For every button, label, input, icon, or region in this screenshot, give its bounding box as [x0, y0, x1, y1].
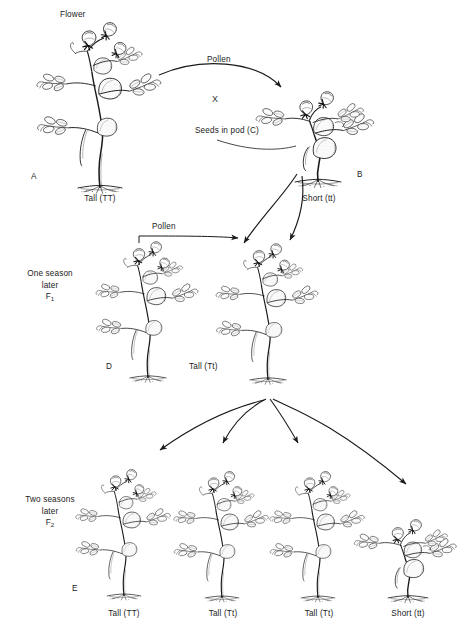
plant-letter-E: E	[72, 584, 78, 595]
caption-plant-A: Tall (TT)	[60, 194, 140, 205]
seeds-in-pod-leader	[217, 140, 296, 149]
flower-label: Flower	[60, 10, 85, 21]
caption-f2-plant-3: Tall (Tt)	[279, 609, 359, 620]
stage-f1-line2: later	[42, 281, 59, 290]
plant-E-tall-TT	[75, 468, 172, 600]
f2-arrow-3	[270, 399, 298, 443]
caption-plant-D: Tall (Tt)	[189, 362, 218, 373]
stage-label-f2: Two seasons later F2	[8, 494, 92, 529]
pollen-label-top: Pollen	[207, 55, 231, 66]
pollen-arrow-f1	[139, 236, 238, 238]
stage-f1-line1: One season	[27, 269, 73, 278]
seeds-in-pod-label: Seeds in pod (C)	[195, 126, 259, 137]
plant-F2-tall-Tt-2	[269, 470, 366, 602]
plant-letter-D: D	[106, 362, 112, 373]
stage-f1-subscript: 1	[51, 295, 55, 302]
inheritance-diagram	[0, 0, 464, 633]
plant-F1-right-tall	[215, 243, 320, 385]
stage-f2-subscript: 2	[51, 521, 55, 528]
plant-A-tall	[35, 21, 162, 194]
cross-arrow-f1-right	[290, 176, 303, 240]
caption-f2-plant-2: Tall (Tt)	[183, 609, 263, 620]
stage-f2-line2: later	[42, 507, 59, 516]
plant-letter-A: A	[31, 172, 37, 183]
caption-plant-B: Short (tt)	[279, 194, 359, 205]
cross-symbol: X	[212, 94, 218, 106]
stage-f1-symbol: F	[46, 292, 51, 301]
stage-f2-line1: Two seasons	[25, 495, 74, 504]
plant-F2-tall-Tt-1	[173, 470, 270, 602]
cross-arrow-f1-left	[244, 174, 297, 243]
plant-letter-B: B	[357, 170, 363, 181]
pollen-label-f1: Pollen	[152, 222, 176, 233]
stage-label-f1: One season later F1	[8, 268, 92, 303]
stage-f2-symbol: F	[46, 518, 51, 527]
caption-f2-plant-1: Tall (TT)	[84, 609, 164, 620]
caption-f2-plant-4: Short (tt)	[368, 609, 448, 620]
f2-arrow-4	[273, 399, 406, 484]
f2-arrow-1	[160, 400, 264, 450]
plant-F2-short-tt	[353, 518, 458, 603]
pollen-arrow-top	[159, 64, 281, 87]
